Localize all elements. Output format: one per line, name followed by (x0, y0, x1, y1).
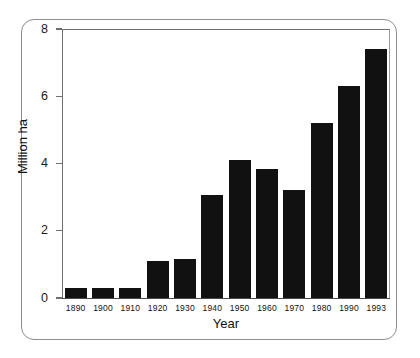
bar (229, 160, 251, 298)
x-axis-title: Year (62, 316, 390, 331)
bar (65, 288, 87, 298)
bar (256, 169, 278, 298)
bar (201, 195, 223, 298)
bar-chart-figure: 02468 1890190019101920193019401950196019… (0, 0, 420, 358)
bar (311, 123, 333, 298)
bar (365, 49, 387, 298)
bars-group (62, 29, 390, 298)
bar (338, 86, 360, 298)
bar (174, 259, 196, 298)
bar (119, 288, 141, 298)
y-axis-tick-label: 0 (22, 292, 48, 305)
y-axis-title: Million ha (15, 87, 30, 207)
y-axis-tick-label: 2 (22, 224, 48, 237)
bar (92, 288, 114, 298)
bar (283, 190, 305, 298)
x-axis-tick-label: 1993 (356, 303, 396, 313)
y-axis-tick-label: 8 (22, 23, 48, 36)
bar (147, 261, 169, 298)
